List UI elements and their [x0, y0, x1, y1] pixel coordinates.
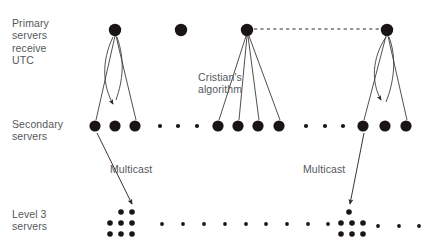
ellipsis-dot [264, 222, 268, 226]
edge-primary4-secondary10 [388, 36, 407, 120]
ellipsis-dot [323, 124, 327, 128]
level3-server-node[interactable] [118, 220, 124, 226]
level3-server-node[interactable] [118, 231, 124, 237]
level3-server-node[interactable] [107, 220, 113, 226]
level3-server-node[interactable] [349, 231, 355, 237]
secondary-server-node[interactable] [129, 120, 140, 131]
label-multicast-right: Multicast [303, 163, 345, 175]
label-cristians-algorithm: Cristian's algorithm [198, 71, 242, 96]
level3-server-node[interactable] [107, 231, 113, 237]
ellipsis-dot [417, 224, 421, 228]
ellipsis-dot [195, 124, 199, 128]
ellipsis-dot [397, 224, 401, 228]
level3-server-node[interactable] [360, 220, 366, 226]
edge-primary4-secondary8 [364, 36, 386, 120]
ellipsis-dot [244, 222, 248, 226]
secondary-server-node[interactable] [232, 120, 243, 131]
level3-server-node[interactable] [118, 209, 124, 215]
primary-server-nodes [109, 24, 393, 36]
primary-server-node[interactable] [109, 24, 121, 36]
secondary-server-nodes [89, 120, 411, 131]
secondary-server-node[interactable] [252, 120, 263, 131]
diagram-canvas: Primary servers receive UTC Secondary se… [0, 0, 429, 249]
level3-server-node[interactable] [349, 220, 355, 226]
secondary-server-node[interactable] [379, 120, 390, 131]
level3-server-node[interactable] [360, 231, 366, 237]
level3-server-node[interactable] [346, 209, 352, 215]
label-level-3-servers: Level 3 servers [12, 208, 47, 233]
diagram-svg [0, 0, 429, 249]
cristian-arc-right-up [386, 37, 394, 102]
ellipsis-dot [181, 222, 185, 226]
ellipsis-dot [304, 124, 308, 128]
ellipsis-dot [285, 222, 289, 226]
level3-server-node[interactable] [338, 220, 344, 226]
label-multicast-left: Multicast [110, 163, 152, 175]
level3-server-node[interactable] [129, 231, 135, 237]
ellipsis-dot [176, 124, 180, 128]
primary-server-node[interactable] [381, 24, 393, 36]
multicast-arrow-right [350, 133, 364, 204]
ellipsis-dot [341, 124, 345, 128]
edge-primary1-secondary3 [116, 36, 136, 120]
primary-server-node[interactable] [241, 24, 253, 36]
level3-server-node[interactable] [129, 220, 135, 226]
cristian-arc-left-down [105, 37, 113, 104]
primary-server-node[interactable] [175, 24, 187, 36]
cristian-arc-left-up [116, 37, 122, 100]
level3-cluster-right [338, 209, 366, 237]
ellipsis-dot [158, 124, 162, 128]
secondary-server-node[interactable] [212, 120, 223, 131]
secondary-server-node[interactable] [400, 120, 411, 131]
ellipsis-dot [223, 222, 227, 226]
ellipsis-dot [326, 222, 330, 226]
label-secondary-servers: Secondary servers [12, 118, 63, 143]
secondary-server-node[interactable] [89, 120, 100, 131]
secondary-ellipsis-dots [158, 124, 345, 128]
edge-primary1-secondary1 [96, 36, 115, 120]
level3-server-node[interactable] [129, 209, 135, 215]
level3-cluster-left [107, 209, 135, 237]
ellipsis-dot [160, 222, 164, 226]
secondary-server-node[interactable] [109, 120, 120, 131]
edges-primary-to-secondary [96, 36, 407, 120]
level3-ellipsis-dots [160, 222, 421, 228]
cristian-arc-right-down [374, 37, 386, 100]
ellipsis-dot [306, 222, 310, 226]
ellipsis-dot [376, 224, 380, 228]
ellipsis-dot [202, 222, 206, 226]
label-primary-servers: Primary servers receive UTC [12, 17, 49, 67]
secondary-server-node[interactable] [357, 120, 368, 131]
secondary-server-node[interactable] [273, 120, 284, 131]
level3-server-node[interactable] [338, 231, 344, 237]
